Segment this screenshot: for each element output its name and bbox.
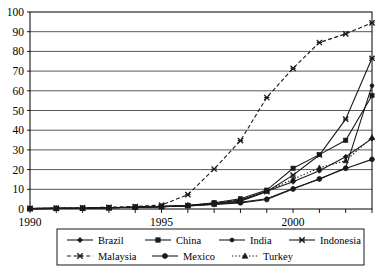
y-tick-label: 50 <box>13 105 25 117</box>
data-point-marker <box>230 238 234 242</box>
data-point-marker <box>162 253 167 258</box>
y-tick-label: 40 <box>13 124 25 136</box>
line-chart: 0102030405060708090100 199019952000 Braz… <box>0 0 380 271</box>
y-tick-label: 90 <box>13 26 25 38</box>
data-point-marker <box>264 197 269 202</box>
data-point-marker <box>291 187 296 192</box>
data-point-marker <box>156 238 160 242</box>
data-point-marker <box>370 93 374 97</box>
data-point-marker <box>370 84 374 88</box>
data-point-marker <box>370 157 375 162</box>
legend-label: China <box>176 235 201 246</box>
x-tick-label: 2000 <box>282 216 305 228</box>
y-tick-label: 70 <box>13 65 25 77</box>
data-point-marker <box>343 166 348 171</box>
y-tick-label: 20 <box>13 164 25 176</box>
y-tick-label: 100 <box>7 6 25 18</box>
data-point-marker <box>291 166 295 170</box>
x-axis-tick-labels: 199019952000 <box>19 216 305 228</box>
y-tick-label: 30 <box>13 144 25 156</box>
x-tick-label: 1995 <box>150 216 173 228</box>
y-tick-label: 80 <box>13 45 25 57</box>
legend-label: India <box>250 235 272 246</box>
chart-canvas: 0102030405060708090100 199019952000 Braz… <box>0 0 380 271</box>
legend-label: Indonesia <box>320 235 361 246</box>
legend-label: Malaysia <box>98 251 137 262</box>
y-axis-tick-labels: 0102030405060708090100 <box>7 6 25 215</box>
x-tick-label: 1990 <box>19 216 42 228</box>
data-point-marker <box>344 138 348 142</box>
y-tick-label: 60 <box>13 85 25 97</box>
y-tick-label: 10 <box>13 183 25 195</box>
y-tick-label: 0 <box>18 203 24 215</box>
legend-label: Brazil <box>98 235 124 246</box>
legend-label: Mexico <box>183 251 215 262</box>
data-point-marker <box>317 176 322 181</box>
legend-label: Turkey <box>263 251 294 262</box>
chart-legend: BrazilChinaIndiaIndonesiaMalaysiaMexicoT… <box>57 229 364 265</box>
